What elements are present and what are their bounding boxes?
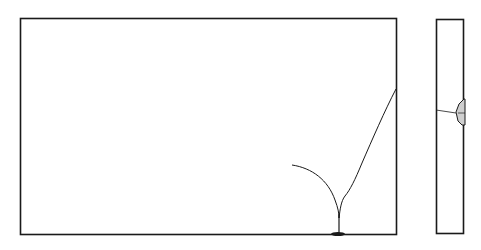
front-panel-outline [21,19,397,235]
side-panel-outline [437,20,464,234]
crack-origin-mark [331,232,345,236]
leader-line [436,110,456,113]
side-view [436,20,465,234]
patent-drawing [0,0,481,250]
front-view [21,19,397,237]
crack-line-left [292,165,339,218]
side-protrusion [456,99,465,125]
crack-line-right [339,89,396,218]
